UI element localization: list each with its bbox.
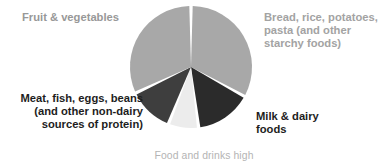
pie-label-bread-rice-potatoes-pasta: Bread, rice, potatoes, pasta (and other …: [264, 11, 382, 51]
eatwell-pie-chart: Fruit & vegetables Bread, rice, potatoes…: [0, 0, 382, 161]
pie-label-meat-fish-eggs-beans: Meat, fish, eggs, beans (and other non-d…: [0, 92, 143, 132]
pie-slices-group: [130, 6, 252, 128]
pie-label-food-drinks-high-in-fat-and-sugar: Food and drinks high: [124, 150, 284, 161]
pie-label-milk-dairy-foods: Milk & dairy foods: [256, 110, 366, 136]
pie-label-fruit-vegetables: Fruit & vegetables: [22, 11, 162, 24]
